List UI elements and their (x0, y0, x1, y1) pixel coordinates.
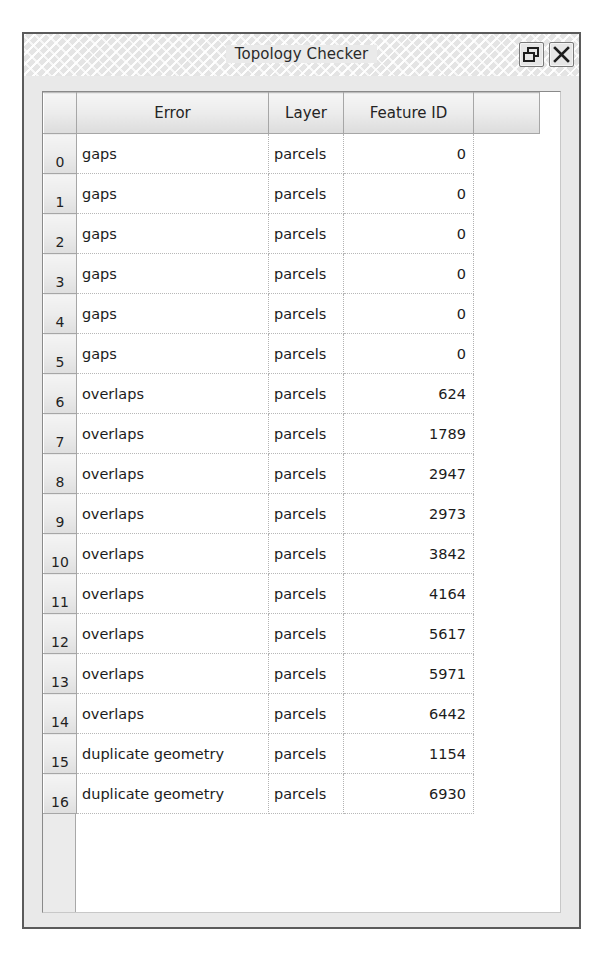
cell-error[interactable]: overlaps (77, 454, 269, 494)
row-header-number[interactable]: 0 (44, 134, 77, 174)
float-icon (520, 43, 543, 66)
cell-feature-id[interactable]: 4164 (344, 574, 474, 614)
cell-error[interactable]: gaps (77, 174, 269, 214)
close-button[interactable] (549, 42, 574, 67)
cell-feature-id[interactable]: 0 (344, 174, 474, 214)
table-row[interactable]: 8overlapsparcels2947 (44, 454, 540, 494)
cell-feature-id[interactable]: 0 (344, 254, 474, 294)
cell-error[interactable]: gaps (77, 254, 269, 294)
topology-error-table[interactable]: Error Layer Feature ID 0gapsparcels01gap… (42, 91, 561, 913)
row-header-number[interactable]: 2 (44, 214, 77, 254)
cell-layer[interactable]: parcels (269, 374, 344, 414)
window-titlebar[interactable]: Topology Checker (24, 34, 579, 76)
row-header-number[interactable]: 11 (44, 574, 77, 614)
cell-layer[interactable]: parcels (269, 494, 344, 534)
cell-feature-id[interactable]: 0 (344, 134, 474, 174)
row-header-number[interactable]: 16 (44, 774, 77, 814)
float-button[interactable] (519, 42, 544, 67)
row-header-number[interactable]: 13 (44, 654, 77, 694)
cell-error[interactable]: overlaps (77, 654, 269, 694)
cell-layer[interactable]: parcels (269, 614, 344, 654)
cell-layer[interactable]: parcels (269, 534, 344, 574)
cell-feature-id[interactable]: 1154 (344, 734, 474, 774)
row-header-number[interactable]: 3 (44, 254, 77, 294)
cell-feature-id[interactable]: 0 (344, 214, 474, 254)
cell-layer[interactable]: parcels (269, 694, 344, 734)
column-header-error[interactable]: Error (77, 93, 269, 134)
table-row[interactable]: 16duplicate geometryparcels6930 (44, 774, 540, 814)
cell-error[interactable]: gaps (77, 214, 269, 254)
cell-filler (474, 214, 540, 254)
cell-layer[interactable]: parcels (269, 414, 344, 454)
row-header-number[interactable]: 7 (44, 414, 77, 454)
table-row[interactable]: 7overlapsparcels1789 (44, 414, 540, 454)
cell-layer[interactable]: parcels (269, 214, 344, 254)
cell-layer[interactable]: parcels (269, 734, 344, 774)
cell-feature-id[interactable]: 5617 (344, 614, 474, 654)
row-header-number[interactable]: 12 (44, 614, 77, 654)
row-header-number[interactable]: 6 (44, 374, 77, 414)
table-row[interactable]: 1gapsparcels0 (44, 174, 540, 214)
cell-error[interactable]: overlaps (77, 414, 269, 454)
table-row[interactable]: 0gapsparcels0 (44, 134, 540, 174)
cell-filler (474, 694, 540, 734)
row-header-number[interactable]: 10 (44, 534, 77, 574)
row-header-number[interactable]: 9 (44, 494, 77, 534)
cell-error[interactable]: overlaps (77, 694, 269, 734)
cell-error[interactable]: overlaps (77, 614, 269, 654)
table-row[interactable]: 4gapsparcels0 (44, 294, 540, 334)
cell-layer[interactable]: parcels (269, 294, 344, 334)
cell-layer[interactable]: parcels (269, 574, 344, 614)
cell-error[interactable]: overlaps (77, 534, 269, 574)
cell-feature-id[interactable]: 5971 (344, 654, 474, 694)
cell-feature-id[interactable]: 6930 (344, 774, 474, 814)
table-row[interactable]: 14overlapsparcels6442 (44, 694, 540, 734)
cell-layer[interactable]: parcels (269, 454, 344, 494)
row-header-number[interactable]: 14 (44, 694, 77, 734)
cell-layer[interactable]: parcels (269, 654, 344, 694)
cell-error[interactable]: overlaps (77, 494, 269, 534)
cell-feature-id[interactable]: 2973 (344, 494, 474, 534)
cell-error[interactable]: gaps (77, 134, 269, 174)
cell-layer[interactable]: parcels (269, 174, 344, 214)
table-row[interactable]: 11overlapsparcels4164 (44, 574, 540, 614)
row-header-number[interactable]: 8 (44, 454, 77, 494)
cell-error[interactable]: gaps (77, 334, 269, 374)
cell-feature-id[interactable]: 1789 (344, 414, 474, 454)
row-header-number[interactable]: 15 (44, 734, 77, 774)
cell-layer[interactable]: parcels (269, 254, 344, 294)
cell-filler (474, 494, 540, 534)
cell-filler (474, 774, 540, 814)
row-header-number[interactable]: 4 (44, 294, 77, 334)
cell-error[interactable]: duplicate geometry (77, 774, 269, 814)
table-row[interactable]: 9overlapsparcels2973 (44, 494, 540, 534)
cell-feature-id[interactable]: 6442 (344, 694, 474, 734)
cell-layer[interactable]: parcels (269, 774, 344, 814)
cell-error[interactable]: duplicate geometry (77, 734, 269, 774)
table-row[interactable]: 6overlapsparcels624 (44, 374, 540, 414)
cell-feature-id[interactable]: 2947 (344, 454, 474, 494)
table-row[interactable]: 10overlapsparcels3842 (44, 534, 540, 574)
table-row[interactable]: 12overlapsparcels5617 (44, 614, 540, 654)
cell-error[interactable]: gaps (77, 294, 269, 334)
table-row[interactable]: 5gapsparcels0 (44, 334, 540, 374)
corner-header[interactable] (44, 93, 77, 134)
cell-layer[interactable]: parcels (269, 334, 344, 374)
cell-error[interactable]: overlaps (77, 374, 269, 414)
row-header-number[interactable]: 5 (44, 334, 77, 374)
column-header-layer[interactable]: Layer (269, 93, 344, 134)
table-row[interactable]: 15duplicate geometryparcels1154 (44, 734, 540, 774)
cell-feature-id[interactable]: 0 (344, 334, 474, 374)
row-header-number[interactable]: 1 (44, 174, 77, 214)
cell-feature-id[interactable]: 3842 (344, 534, 474, 574)
cell-feature-id[interactable]: 0 (344, 294, 474, 334)
cell-filler (474, 254, 540, 294)
table-row[interactable]: 13overlapsparcels5971 (44, 654, 540, 694)
cell-filler (474, 654, 540, 694)
table-row[interactable]: 2gapsparcels0 (44, 214, 540, 254)
cell-layer[interactable]: parcels (269, 134, 344, 174)
cell-feature-id[interactable]: 624 (344, 374, 474, 414)
table-row[interactable]: 3gapsparcels0 (44, 254, 540, 294)
column-header-feature-id[interactable]: Feature ID (344, 93, 474, 134)
cell-error[interactable]: overlaps (77, 574, 269, 614)
